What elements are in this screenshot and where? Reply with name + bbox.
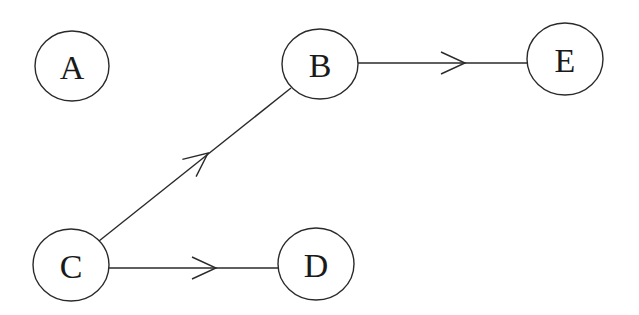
edge-line — [99, 88, 291, 241]
graph-svg: ABECD — [0, 0, 639, 315]
node-label: D — [304, 247, 329, 284]
node-b: B — [282, 29, 358, 99]
nodes-layer: ABECD — [33, 23, 603, 301]
node-label: E — [555, 42, 576, 79]
node-d: D — [278, 228, 354, 300]
edge-b-e — [358, 52, 527, 74]
graph-diagram: ABECD — [0, 0, 639, 315]
edge-c-d — [109, 257, 278, 279]
edge-c-b — [99, 88, 291, 241]
node-label: B — [309, 47, 332, 84]
node-label: A — [60, 49, 85, 86]
node-e: E — [527, 23, 603, 95]
node-a: A — [35, 31, 109, 101]
node-c: C — [33, 229, 109, 301]
node-label: C — [60, 248, 83, 285]
